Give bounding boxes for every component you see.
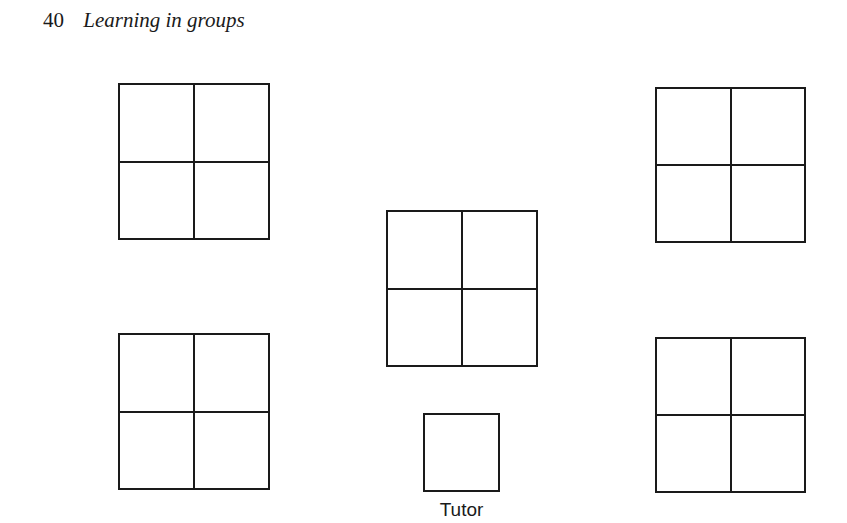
tutor-desk <box>423 413 500 492</box>
running-title: Learning in groups <box>83 8 244 32</box>
desk-divider-horizontal <box>120 161 268 163</box>
tutor-label: Tutor <box>412 499 512 521</box>
desk-divider-horizontal <box>657 414 804 416</box>
page-number: 40 <box>43 8 64 32</box>
desk-divider-horizontal <box>657 164 804 166</box>
desk-group-center <box>386 210 538 367</box>
desk-group-top-left <box>118 83 270 240</box>
desk-divider-horizontal <box>388 288 536 290</box>
desk-group-top-right <box>655 87 806 243</box>
page-header: 40 Learning in groups <box>43 8 245 33</box>
desk-group-bottom-right <box>655 337 806 493</box>
desk-group-bottom-left <box>118 333 270 490</box>
desk-divider-horizontal <box>120 411 268 413</box>
